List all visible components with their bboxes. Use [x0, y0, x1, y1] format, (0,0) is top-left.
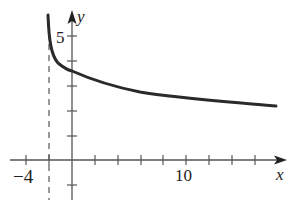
x-tick-label-neg-four: −4	[13, 167, 33, 186]
y-axis-label: y	[77, 8, 85, 25]
x-tick-label-ten: 10	[175, 167, 192, 184]
y-tick-label-five: 5	[56, 29, 65, 46]
function-curve	[48, 15, 276, 106]
function-graph	[0, 0, 299, 206]
x-axis-label: x	[276, 166, 284, 183]
